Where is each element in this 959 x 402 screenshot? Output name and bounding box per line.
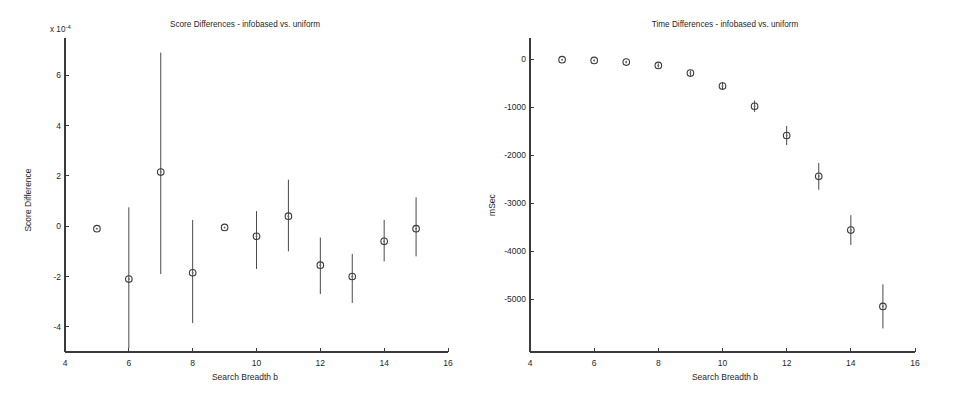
- y-axis-tick-label: 0: [521, 54, 526, 64]
- data-point-center: [383, 240, 385, 242]
- data-point-center: [657, 64, 659, 66]
- x-axis-tick-label: 6: [126, 358, 131, 368]
- x-axis-tick-label: 16: [443, 358, 453, 368]
- data-point-center: [625, 61, 627, 63]
- y-axis-tick-label: -2000: [504, 150, 526, 160]
- x-axis-tick-label: 12: [316, 358, 326, 368]
- y-axis-tick-label: 0: [56, 221, 61, 231]
- data-point-center: [415, 228, 417, 230]
- data-point-center: [160, 171, 162, 173]
- x-axis-tick-label: 4: [528, 358, 533, 368]
- data-point-center: [689, 72, 691, 74]
- x-axis-tick-label: 8: [656, 358, 661, 368]
- time-differences-plot: Time Differences - infobased vs. uniform…: [480, 0, 959, 402]
- x-axis-tick-label: 6: [592, 358, 597, 368]
- y-axis-title: mSec: [487, 193, 497, 215]
- x-axis-title: Search Breadth b: [692, 372, 758, 382]
- y-axis-tick-label: -1000: [504, 102, 526, 112]
- score-differences-plot: Score Differences - infobased vs. unifor…: [0, 0, 480, 402]
- y-axis-exponent-label: x 10-4: [50, 24, 71, 34]
- x-axis-tick-label: 10: [718, 358, 728, 368]
- data-point-center: [192, 272, 194, 274]
- data-point-center: [722, 85, 724, 87]
- x-axis-tick-label: 12: [782, 358, 792, 368]
- y-axis-tick-label: 6: [56, 70, 61, 80]
- y-axis-tick-label: -3000: [504, 198, 526, 208]
- plot-title: Score Differences - infobased vs. unifor…: [170, 20, 320, 29]
- y-axis-tick-label: -4000: [504, 246, 526, 256]
- data-point-center: [882, 305, 884, 307]
- data-point-center: [319, 264, 321, 266]
- x-axis-tick-label: 10: [252, 358, 262, 368]
- data-point-center: [850, 229, 852, 231]
- y-axis-tick-label: -5000: [504, 294, 526, 304]
- data-point-center: [561, 59, 563, 61]
- plot-title: Time Differences - infobased vs. uniform: [652, 20, 799, 29]
- data-point-center: [786, 135, 788, 137]
- data-point-center: [754, 105, 756, 107]
- panel-time-differences: Time Differences - infobased vs. uniform…: [480, 0, 959, 402]
- x-axis-tick-label: 14: [379, 358, 389, 368]
- data-point-center: [128, 278, 130, 280]
- data-point-center: [287, 215, 289, 217]
- x-axis-tick-label: 8: [190, 358, 195, 368]
- x-axis-tick-label: 14: [846, 358, 856, 368]
- y-axis-title: Score Difference: [23, 168, 33, 231]
- y-axis-tick-label: -4: [53, 322, 61, 332]
- data-point-center: [256, 235, 258, 237]
- figure-container: Score Differences - infobased vs. unifor…: [0, 0, 959, 402]
- y-axis-tick-label: -2: [53, 272, 61, 282]
- data-point-center: [818, 175, 820, 177]
- panel-score-differences: Score Differences - infobased vs. unifor…: [0, 0, 480, 402]
- x-axis-tick-label: 16: [910, 358, 920, 368]
- x-axis-title: Search Breadth b: [212, 372, 278, 382]
- data-point-center: [593, 59, 595, 61]
- data-point-center: [224, 226, 226, 228]
- data-point-center: [351, 276, 353, 278]
- y-axis-tick-label: 2: [56, 171, 61, 181]
- data-point-center: [96, 228, 98, 230]
- x-axis-tick-label: 4: [63, 358, 68, 368]
- y-axis-tick-label: 4: [56, 121, 61, 131]
